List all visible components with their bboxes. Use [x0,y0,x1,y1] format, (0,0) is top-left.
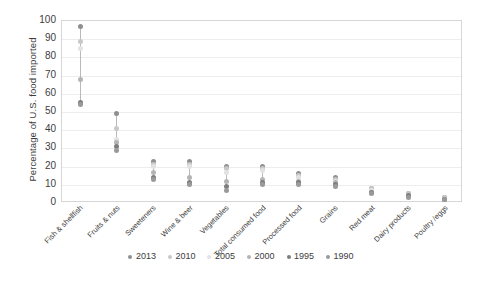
legend-marker-icon [247,255,251,259]
data-point [187,182,192,187]
data-point [260,182,265,187]
data-point [369,191,374,196]
chart-legend: 201320102005200019951990 [0,252,482,261]
dot-plot-chart: Percentage of U.S. food imported 1009080… [0,0,482,290]
legend-label: 1990 [334,252,354,261]
data-point [78,39,83,44]
legend-label: 2010 [175,252,195,261]
legend-marker-icon [168,255,172,259]
data-point [333,184,338,189]
data-point [224,188,229,193]
data-point [224,179,229,184]
gridline [62,130,461,131]
data-point [78,77,83,82]
legend-item-1995[interactable]: 1995 [287,252,315,261]
legend-item-1990[interactable]: 1990 [326,252,354,261]
y-axis-tick: 10 [45,179,56,189]
gridline [62,76,461,77]
data-point [224,170,229,175]
legend-marker-icon [326,255,330,259]
data-point [260,168,265,173]
legend-label: 2000 [255,252,275,261]
y-axis-tick: 50 [45,106,56,116]
y-axis-tick: 100 [39,15,56,25]
legend-item-2013[interactable]: 2013 [128,252,156,261]
legend-item-2010[interactable]: 2010 [168,252,196,261]
legend-label: 1995 [294,252,314,261]
gridline [62,94,461,95]
data-point [187,164,192,169]
y-axis-tick: 80 [45,51,56,61]
data-point [151,164,156,169]
y-axis-tick: 60 [45,88,56,98]
gridline [62,148,461,149]
legend-marker-icon [207,255,211,259]
data-point [78,102,83,107]
y-axis-tick: 20 [45,161,56,171]
data-point [296,182,301,187]
legend-item-2005[interactable]: 2005 [207,252,235,261]
y-axis-tick: 30 [45,142,56,152]
y-axis-tick: 70 [45,70,56,80]
legend-label: 2013 [136,252,156,261]
legend-marker-icon [128,255,132,259]
data-point [78,46,83,51]
data-point [406,195,411,200]
plot-area [61,20,462,202]
data-point [78,24,83,29]
gridline [62,112,461,113]
y-axis-tick: 40 [45,124,56,134]
legend-item-2000[interactable]: 2000 [247,252,275,261]
y-axis-tick-labels: 1009080706050403020100 [26,20,56,202]
data-point [187,175,192,180]
y-axis-tick: 90 [45,33,56,43]
data-point [442,197,447,202]
data-point [114,148,119,153]
gridline [62,57,461,58]
x-axis-category-labels: Fish & shellfishFruits & nutsSweetenersW… [61,204,462,252]
data-point [114,111,119,116]
y-axis-tick: 0 [50,197,56,207]
gridline [62,39,461,40]
legend-label: 2005 [215,252,235,261]
legend-marker-icon [287,255,291,259]
data-point [151,177,156,182]
data-point [151,170,156,175]
